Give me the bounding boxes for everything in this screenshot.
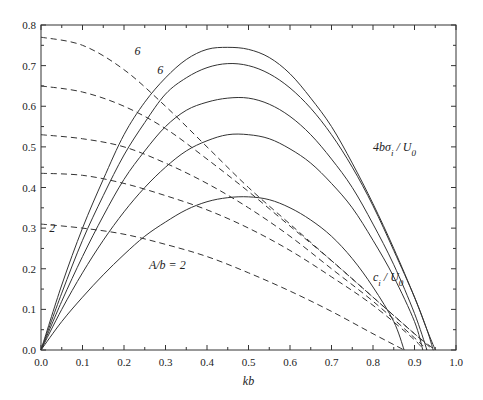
x-tick-label: 0.4 [200, 356, 214, 368]
series-line [41, 173, 423, 350]
x-tick-label: 0.7 [325, 356, 339, 368]
x-tick-label: 0.9 [408, 356, 422, 368]
y-tick-label: 0.2 [22, 263, 36, 275]
x-tick-label: 1.0 [449, 356, 463, 368]
y-tick-label: 0.1 [22, 303, 36, 315]
series-line [41, 47, 435, 350]
annotation-label: 4bσi / U0 [373, 140, 416, 158]
series-line [41, 135, 427, 350]
x-tick-label: 0.5 [242, 356, 256, 368]
axes: 0.00.10.20.30.40.50.60.70.80.91.00.00.10… [22, 19, 463, 388]
y-tick-label: 0.0 [22, 344, 36, 356]
series-line [41, 197, 404, 350]
y-tick-label: 0.8 [22, 19, 36, 31]
annotation-label: 2 [49, 221, 55, 235]
annotation-label: ci / U0 [373, 270, 404, 288]
y-tick-label: 0.6 [22, 100, 36, 112]
y-tick-label: 0.5 [22, 141, 36, 153]
annotation-label: 6 [157, 63, 163, 77]
annotations: 662A/b = 24bσi / U0ci / U0 [49, 44, 416, 287]
series-line [41, 224, 404, 350]
x-tick-label: 0.3 [159, 356, 173, 368]
series-line [41, 134, 423, 350]
chart: 0.00.10.20.30.40.50.60.70.80.91.00.00.10… [0, 0, 483, 400]
series-line [41, 37, 435, 350]
x-tick-label: 0.0 [34, 356, 48, 368]
series-line [41, 86, 433, 350]
y-tick-label: 0.3 [22, 222, 36, 234]
series-line [41, 97, 427, 350]
x-tick-label: 0.1 [76, 356, 90, 368]
curves [41, 37, 435, 350]
x-axis-label: kb [243, 374, 254, 388]
x-tick-label: 0.6 [283, 356, 297, 368]
y-tick-label: 0.7 [22, 60, 36, 72]
x-tick-label: 0.2 [117, 356, 131, 368]
annotation-label: 6 [134, 44, 140, 58]
x-tick-label: 0.8 [366, 356, 380, 368]
y-tick-label: 0.4 [22, 182, 36, 194]
annotation-label: A/b = 2 [148, 258, 186, 272]
